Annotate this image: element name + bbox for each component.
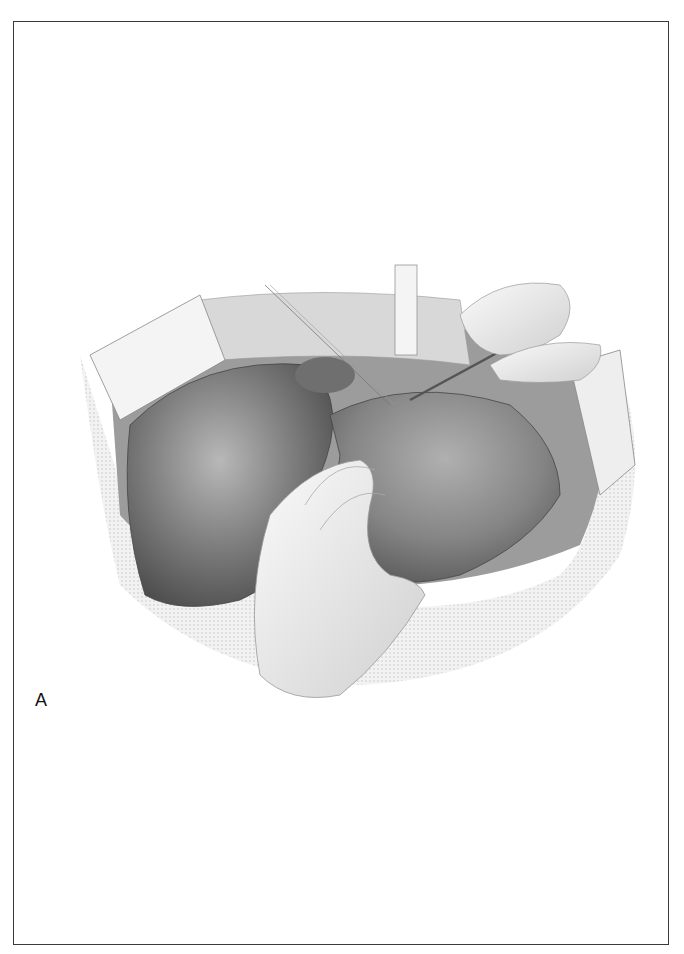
upper-retractor (395, 265, 417, 355)
panel-label: A (35, 690, 47, 711)
surgical-illustration (60, 255, 660, 715)
diaphragm-tissue (200, 293, 470, 366)
